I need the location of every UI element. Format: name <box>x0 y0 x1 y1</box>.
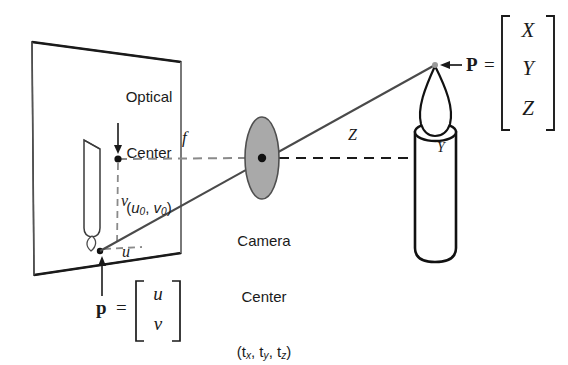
point-p-row-u: u <box>144 284 172 303</box>
camera-center-coords: (tx, ty, tz) <box>223 342 305 365</box>
image-v-label: v <box>121 192 128 211</box>
vector-p-left-bracket <box>136 281 144 341</box>
point-P-equals: = <box>484 54 495 76</box>
point-P-row-X: X <box>510 20 546 41</box>
camera-center-dot <box>258 154 266 162</box>
v0-symbol: v <box>154 199 162 216</box>
t-open: (t <box>237 343 246 360</box>
candle-body <box>415 132 456 262</box>
optical-center-line1: Optical <box>110 87 188 107</box>
point-P-symbol: P <box>466 54 478 76</box>
candle-flame <box>420 66 451 136</box>
optical-center-line2: Center <box>110 143 188 163</box>
world-point-dot <box>432 62 438 68</box>
point-p-symbol: p <box>96 297 107 319</box>
point-P-row-Y: Y <box>510 58 546 79</box>
vector-P-right-bracket <box>546 16 554 130</box>
t-sep2: , t <box>269 343 282 360</box>
P-label-arrow-head <box>440 61 450 69</box>
depth-label: Z <box>348 126 357 145</box>
camera-center-line2: Center <box>223 287 305 307</box>
paren-close: ) <box>167 199 172 216</box>
projected-candle-body <box>84 140 100 237</box>
point-P-row-Z: Z <box>510 98 546 119</box>
vector-p-right-bracket <box>172 281 180 341</box>
t-close: ) <box>286 343 291 360</box>
camera-center-line1: Camera <box>223 231 305 251</box>
camera-center-label: Camera Center (tx, ty, tz) <box>223 196 305 365</box>
vector-P-left-bracket <box>502 16 510 130</box>
point-p-equals: = <box>116 297 127 319</box>
coords-comma: , <box>145 199 153 216</box>
u0-symbol: u <box>131 199 139 216</box>
point-p-row-v: v <box>144 314 172 333</box>
focal-length-label: f <box>182 128 187 148</box>
t-sep1: , t <box>251 343 264 360</box>
world-height-label: Y <box>437 140 445 157</box>
optical-center-label: Optical Center (u0, v0) <box>110 52 188 258</box>
image-u-label: u <box>122 243 130 262</box>
